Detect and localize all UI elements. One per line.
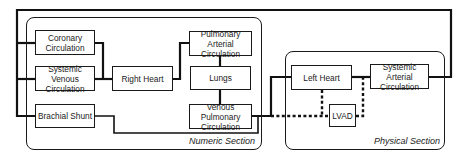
systemic-venous-line2: Circulation — [37, 84, 93, 94]
systemic-arterial-line2: Circulation — [372, 82, 427, 92]
venous-pulmonary-line2: Circulation — [191, 122, 250, 132]
systemic-venous-circulation-block[interactable]: Systemic Venous Circulation — [35, 66, 95, 91]
systemic-arterial-circulation-block[interactable]: Systemic Arterial Circulation — [370, 64, 429, 89]
pulmonary-arterial-line2: Circulation — [191, 49, 250, 59]
numeric-section-label: Numeric Section — [189, 136, 255, 146]
systemic-venous-line1: Systemic Venous — [37, 64, 93, 84]
left-heart-label: Left Heart — [303, 73, 339, 83]
left-heart-block[interactable]: Left Heart — [291, 65, 352, 90]
lungs-label: Lungs — [209, 73, 232, 83]
coronary-line2: Circulation — [45, 43, 84, 53]
right-heart-block[interactable]: Right Heart — [112, 66, 173, 91]
lvad-label: LVAD — [332, 111, 352, 121]
pulmonary-arterial-circulation-block[interactable]: Pulmonary Arterial Circulation — [189, 31, 252, 56]
systemic-arterial-line1: Systemic Arterial — [372, 62, 427, 82]
physical-section-label: Physical Section — [374, 136, 440, 146]
lvad-block[interactable]: LVAD — [329, 104, 356, 127]
venous-pulmonary-circulation-block[interactable]: Venous Pulmonary Circulation — [189, 104, 252, 129]
brachial-shunt-label: Brachial Shunt — [38, 111, 92, 121]
pulmonary-arterial-line1: Pulmonary Arterial — [191, 29, 250, 49]
brachial-shunt-block[interactable]: Brachial Shunt — [35, 104, 95, 128]
lungs-block[interactable]: Lungs — [190, 66, 251, 90]
coronary-circulation-block[interactable]: Coronary Circulation — [35, 30, 95, 55]
right-heart-label: Right Heart — [122, 74, 164, 84]
diagram-canvas: Numeric Section Physical Section Coronar… — [0, 0, 459, 161]
coronary-line1: Coronary — [45, 33, 84, 43]
venous-pulmonary-line1: Venous Pulmonary — [191, 102, 250, 122]
